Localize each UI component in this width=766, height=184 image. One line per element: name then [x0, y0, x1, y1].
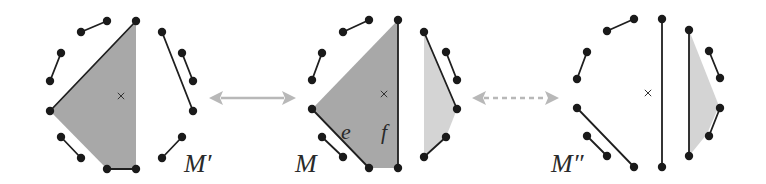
marked-point-dot — [420, 28, 428, 36]
center-x-mark-icon — [645, 90, 651, 96]
marked-point-dot — [178, 49, 186, 57]
arc-edge — [61, 137, 81, 158]
arc-edge — [607, 19, 634, 31]
marked-point-dot — [365, 164, 373, 172]
marked-point-dot — [603, 152, 611, 160]
shaded-region-dark — [312, 20, 398, 168]
arc-edge — [312, 53, 322, 80]
marked-point-dot — [158, 154, 166, 162]
marked-point-dot — [685, 152, 693, 160]
marked-point-dot — [705, 132, 713, 140]
marked-point-dot — [318, 133, 326, 141]
panels-layer: M′efMM″ — [46, 15, 724, 178]
marked-point-dot — [57, 133, 65, 141]
marked-point-dot — [658, 163, 666, 171]
marked-point-dot — [630, 163, 638, 171]
marked-point-dot — [453, 76, 461, 84]
arc-edge — [446, 52, 457, 80]
marked-point-dot — [103, 165, 111, 173]
panel-M-prime: M′ — [46, 17, 212, 178]
dashed-double-arrow-icon — [472, 91, 559, 105]
marked-point-dot — [46, 107, 54, 115]
marked-point-dot — [583, 132, 591, 140]
marked-point-dot — [339, 153, 347, 161]
marked-point-dot — [716, 74, 724, 82]
marked-point-dot — [132, 17, 140, 25]
arc-edge — [162, 137, 182, 158]
marked-point-dot — [103, 17, 111, 25]
marked-point-dot — [77, 154, 85, 162]
mutation-diagram: M′efMM″ — [0, 0, 766, 184]
arc-edge — [322, 137, 343, 157]
marked-point-dot — [365, 16, 373, 24]
marked-point-dot — [308, 105, 316, 113]
marked-point-dot — [603, 27, 611, 35]
marked-point-dot — [453, 105, 461, 113]
marked-point-dot — [573, 75, 581, 83]
arc-edge — [709, 51, 720, 78]
marked-point-dot — [77, 28, 85, 36]
shaded-region-light — [424, 32, 457, 157]
marked-point-dot — [158, 28, 166, 36]
marked-point-dot — [442, 48, 450, 56]
marked-point-dot — [630, 15, 638, 23]
marked-point-dot — [583, 48, 591, 56]
arc-edge — [182, 53, 193, 81]
marked-point-dot — [46, 77, 54, 85]
marked-point-dot — [339, 28, 347, 36]
marked-point-dot — [394, 164, 402, 172]
marked-point-dot — [573, 104, 581, 112]
panel-M: efM — [294, 16, 461, 178]
marked-point-dot — [189, 77, 197, 85]
marked-point-dot — [420, 153, 428, 161]
marked-point-dot — [189, 107, 197, 115]
panel-label-M: M — [294, 149, 318, 178]
marked-point-dot — [308, 76, 316, 84]
double-arrow-icon — [209, 91, 296, 105]
marked-point-dot — [716, 104, 724, 112]
marked-point-dot — [132, 165, 140, 173]
panel-label-M-double-prime: M″ — [550, 149, 585, 178]
marked-point-dot — [685, 26, 693, 34]
arc-edge — [343, 20, 369, 32]
arc-edge — [50, 53, 61, 81]
panel-label-M-prime: M′ — [183, 149, 212, 178]
marked-point-dot — [394, 16, 402, 24]
edge-label-e: e — [341, 119, 351, 144]
marked-point-dot — [57, 49, 65, 57]
marked-point-dot — [705, 47, 713, 55]
arc-edge — [81, 21, 107, 32]
marked-point-dot — [442, 133, 450, 141]
arc-edge — [577, 52, 587, 79]
marked-point-dot — [178, 133, 186, 141]
arc-edge — [587, 136, 607, 156]
panel-M-double-prime: M″ — [550, 15, 724, 178]
marked-point-dot — [318, 49, 326, 57]
marked-point-dot — [658, 15, 666, 23]
shaded-region-dark — [50, 21, 136, 169]
shaded-region-light — [689, 30, 719, 156]
